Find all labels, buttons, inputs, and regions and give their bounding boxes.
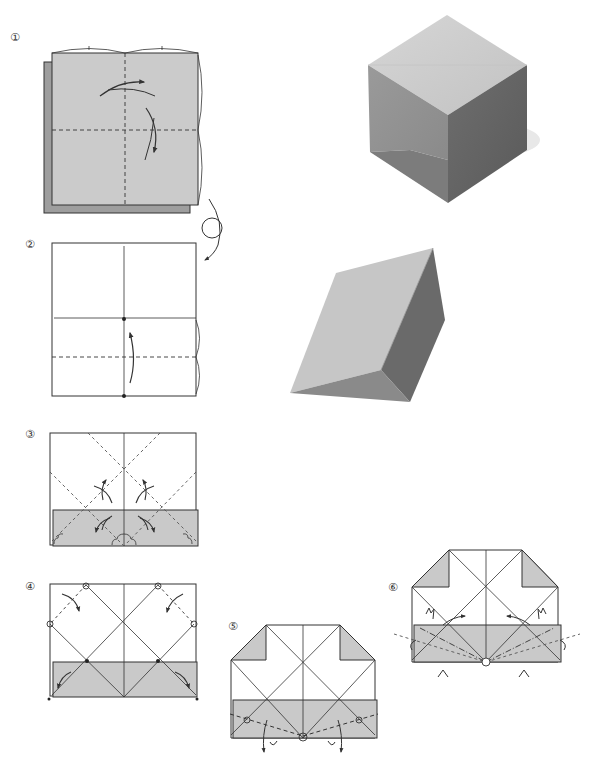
point-mark-icon <box>482 658 490 666</box>
folded-band <box>414 625 561 662</box>
step-5: ⑤ <box>228 620 378 752</box>
step-number-6: ⑥ <box>388 581 398 594</box>
folded-band <box>53 662 197 697</box>
step-2: ② <box>25 238 200 398</box>
step-number-4: ④ <box>25 580 35 593</box>
folded-band <box>53 510 198 546</box>
finished-prism-photo <box>290 248 445 402</box>
step-number-3: ③ <box>25 428 35 441</box>
finished-cube-photo <box>368 15 540 203</box>
step-6: ⑥ <box>388 550 580 677</box>
turn-over-icon <box>202 199 222 260</box>
step-number-2: ② <box>25 238 35 251</box>
step-number-1: ① <box>10 31 20 44</box>
instruction-diagram: ① ② ③ <box>0 0 596 762</box>
step-1: ① <box>10 31 202 213</box>
step-3: ③ <box>25 428 198 546</box>
step-4: ④ <box>25 580 199 701</box>
folded-band <box>233 700 377 738</box>
step-number-5: ⑤ <box>228 620 238 633</box>
